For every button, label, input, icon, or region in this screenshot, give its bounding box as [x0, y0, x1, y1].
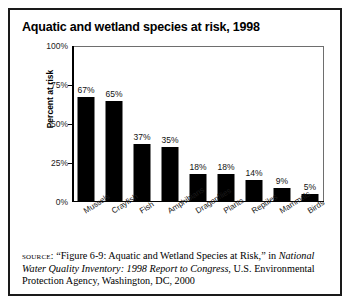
bar-group: 18% — [212, 46, 240, 202]
bars-layer: 67%65%37%35%18%18%14%9%5% — [72, 46, 324, 202]
y-axis-tick-label: 75% — [38, 81, 68, 90]
bar-group: 5% — [296, 46, 324, 202]
bar-value-label: 67% — [77, 85, 94, 95]
x-axis-category-labels: MusselsCrayfishFishAmphibiansDragonflies… — [72, 204, 324, 252]
bar-group: 9% — [268, 46, 296, 202]
y-axis-tick-label: 100% — [38, 42, 68, 51]
figure-frame: Aquatic and wetland species at risk, 199… — [8, 8, 342, 296]
bar-value-label: 9% — [276, 176, 288, 186]
source-note: source: “Figure 6-9: Aquatic and Wetland… — [22, 250, 322, 288]
page-title: Aquatic and wetland species at risk, 199… — [22, 20, 322, 34]
bar-value-label: 18% — [189, 162, 206, 172]
chart-plot-region: Percent at risk 100%75%50%25%0% 67%65%37… — [20, 42, 332, 250]
y-axis-tick-label: 25% — [38, 159, 68, 168]
x-axis-category-label: Fish — [138, 200, 156, 216]
y-axis-tick-labels: 100%75%50%25%0% — [36, 42, 68, 202]
y-axis-tick-label: 50% — [38, 120, 68, 129]
bar-value-label: 14% — [245, 168, 262, 178]
y-axis-tick-mark — [68, 124, 72, 125]
bar — [78, 97, 95, 202]
bar-group: 67% — [72, 46, 100, 202]
y-axis-tick-mark — [68, 163, 72, 164]
bar-value-label: 18% — [217, 162, 234, 172]
bar — [246, 180, 263, 202]
bar-group: 37% — [128, 46, 156, 202]
source-line-1: “Figure 6-9: Aquatic and Wetland Species… — [54, 250, 277, 261]
bar-group: 65% — [100, 46, 128, 202]
bar-value-label: 37% — [133, 132, 150, 142]
bar-group: 35% — [156, 46, 184, 202]
bar-group: 18% — [184, 46, 212, 202]
bar-group: 14% — [240, 46, 268, 202]
source-label: source: — [22, 251, 54, 261]
bar-value-label: 35% — [161, 135, 178, 145]
bar — [162, 147, 179, 202]
bar — [106, 101, 123, 202]
y-axis-tick-mark — [68, 85, 72, 86]
bar-value-label: 65% — [105, 89, 122, 99]
y-axis-tick-label: 0% — [38, 198, 68, 207]
